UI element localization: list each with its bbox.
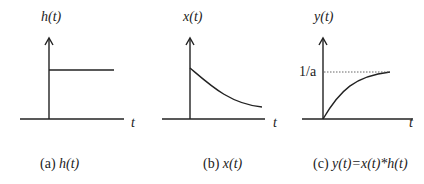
panel-a-ylabel: h(t) (41, 10, 61, 24)
panel-c-level-label: 1/a (299, 65, 316, 79)
panel-b-decay-curve (190, 68, 262, 107)
panel-c-rise-curve (323, 72, 390, 119)
panel-c-caption: (c) y(t)=x(t)*h(t) (313, 157, 408, 171)
panel-a-xlabel: t (131, 116, 135, 130)
caption-prefix: (a) (40, 156, 59, 171)
panel-b-ylabel: x(t) (183, 10, 202, 24)
caption-prefix: (b) (203, 156, 223, 171)
panel-c-ylabel: y(t) (314, 10, 333, 24)
caption-expr: h(t) (59, 156, 79, 171)
panel-b-caption: (b) x(t) (203, 157, 242, 171)
caption-expr: x(t) (223, 156, 242, 171)
panel-a-caption: (a) h(t) (40, 157, 79, 171)
panel-b-xlabel: t (273, 116, 277, 130)
panel-c-xlabel: t (409, 116, 413, 130)
caption-expr: y(t)=x(t)*h(t) (332, 156, 408, 171)
caption-prefix: (c) (313, 156, 332, 171)
